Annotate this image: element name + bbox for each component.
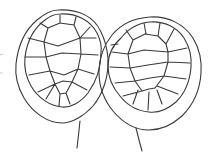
left-carapace-tail-line xyxy=(77,121,80,148)
right-carapace-outline xyxy=(99,17,201,130)
left-carapace xyxy=(16,10,108,148)
left-carapace-outline xyxy=(16,10,108,123)
right-carapace xyxy=(99,17,201,151)
figure-svg xyxy=(0,0,210,154)
right-carapace-tail-line xyxy=(136,128,142,151)
figure-page xyxy=(0,0,210,154)
scan-marks xyxy=(0,54,3,73)
